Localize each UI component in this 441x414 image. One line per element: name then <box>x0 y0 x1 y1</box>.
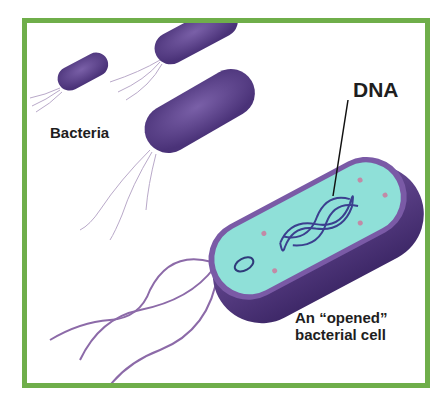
top-bacterium-flagella <box>110 60 162 100</box>
opened-cell-flagella <box>50 259 218 400</box>
opened-cell-label-line2: bacterial cell <box>295 326 388 343</box>
opened-cell-label-line1: An “opened” <box>295 309 388 326</box>
opened-cell-label: An “opened” bacterial cell <box>295 309 388 344</box>
small-bacterium <box>53 48 112 95</box>
small-bacterium-flagella <box>30 88 62 112</box>
middle-bacterium-flagella <box>80 150 156 240</box>
bacteria-illustration <box>0 0 441 414</box>
bacteria-label: Bacteria <box>50 124 109 141</box>
top-bacterium <box>149 0 243 70</box>
dna-label: DNA <box>353 78 399 102</box>
